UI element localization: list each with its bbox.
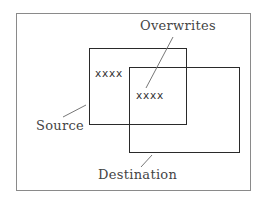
destination-leader-line: [141, 155, 152, 167]
source-label: Source: [36, 119, 84, 132]
diagram-canvas: Overwrites Source Destination xxxx xxxx: [0, 0, 266, 200]
destination-label: Destination: [98, 168, 177, 181]
source-content-text: xxxx: [95, 68, 123, 79]
overwrites-label: Overwrites: [140, 19, 216, 32]
overwrites-leader-line: [146, 37, 173, 88]
source-leader-line: [63, 105, 86, 117]
overlap-content-text: xxxx: [136, 90, 164, 101]
